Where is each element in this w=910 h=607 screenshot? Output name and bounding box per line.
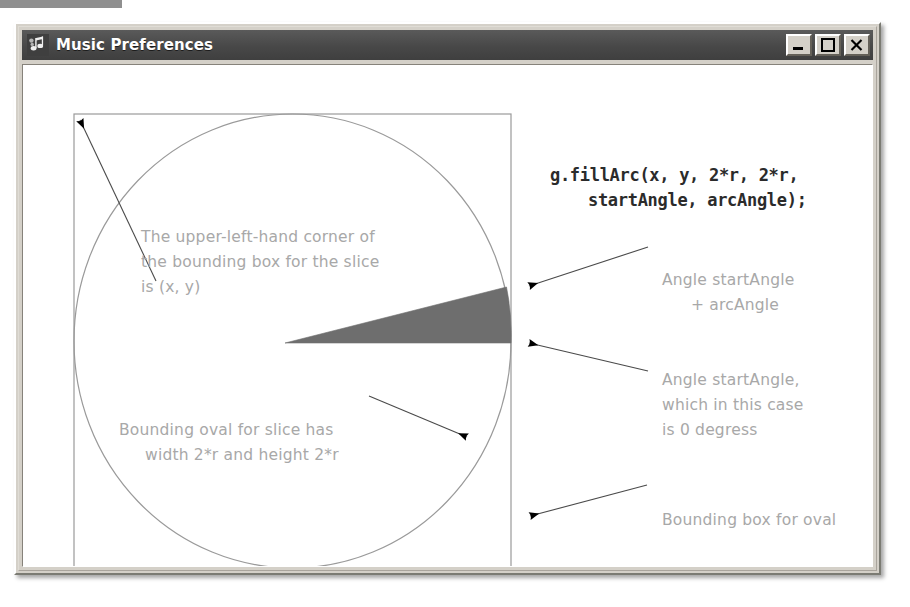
code-line-2: startAngle, arcAngle); [588, 188, 807, 213]
annotation-upper-left-line-3: is (x, y) [141, 275, 200, 300]
title-bar[interactable]: Music Preferences [22, 30, 873, 60]
annotation-upper-left-line-1: The upper-left-hand corner of [141, 225, 375, 250]
arrow-to-bounding-box [530, 485, 647, 516]
annotation-lower-left-line-2: width 2*r and height 2*r [145, 443, 339, 468]
code-line-1: g.fillArc(x, y, 2*r, 2*r, [550, 163, 798, 188]
annotation-upper-left-line-2: the bounding box for the slice [141, 250, 379, 275]
screenshot-canvas: Music Preferences [0, 0, 910, 607]
annotation-arc-start-line-3: is 0 degress [662, 418, 757, 443]
music-note-icon [27, 34, 49, 56]
window-title: Music Preferences [56, 36, 783, 54]
annotation-arc-start-line-2: which in this case [662, 393, 804, 418]
close-button[interactable] [844, 34, 870, 56]
application-window: Music Preferences [14, 22, 881, 575]
arrow-to-arc-start [529, 343, 648, 371]
pie-slice-wedge [285, 287, 511, 343]
annotation-arc-end-line-1: Angle startAngle [662, 268, 794, 293]
maximize-button[interactable] [815, 34, 841, 56]
minimize-button[interactable] [786, 34, 812, 56]
annotation-lower-left-line-1: Bounding oval for slice has [119, 418, 334, 443]
scan-edge-artifact [0, 0, 122, 8]
annotation-bounding-box-line-1: Bounding box for oval [662, 508, 836, 533]
window-client-area: g.fillArc(x, y, 2*r, 2*r, startAngle, ar… [22, 64, 873, 567]
annotation-arc-start-line-1: Angle startAngle, [662, 368, 800, 393]
annotation-arc-end-line-2: + arcAngle [691, 293, 779, 318]
arrow-to-oval-edge [369, 396, 467, 437]
arrow-to-arc-end [529, 247, 648, 286]
